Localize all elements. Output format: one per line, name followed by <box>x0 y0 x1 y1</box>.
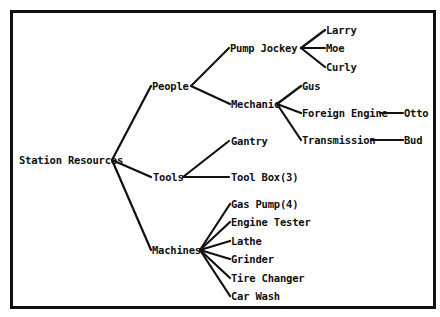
node-gus: Gus <box>302 80 320 92</box>
node-transmission: Transmission <box>302 134 375 146</box>
node-larry: Larry <box>326 24 357 36</box>
node-moe: Moe <box>326 42 344 54</box>
node-curly: Curly <box>326 61 357 73</box>
node-people: People <box>152 80 189 92</box>
node-otto: Otto <box>404 107 429 119</box>
node-bud: Bud <box>404 134 422 146</box>
node-gantry: Gantry <box>231 135 268 147</box>
node-grinder: Grinder <box>231 253 274 265</box>
node-foreign-engine: Foreign Engine <box>302 107 388 119</box>
node-lathe: Lathe <box>231 235 262 247</box>
node-gas-pump: Gas Pump(4) <box>231 198 298 210</box>
node-car-wash: Car Wash <box>231 290 280 302</box>
node-machines: Machines <box>152 244 201 256</box>
node-station-resources: Station Resources <box>19 154 123 166</box>
node-tool-box: Tool Box(3) <box>231 171 298 183</box>
node-engine-tester: Engine Tester <box>231 216 311 228</box>
node-pump-jockey: Pump Jockey <box>230 42 297 54</box>
node-mechanic: Mechanic <box>231 98 280 110</box>
node-tools: Tools <box>153 171 184 183</box>
node-tire-changer: Tire Changer <box>231 272 304 284</box>
